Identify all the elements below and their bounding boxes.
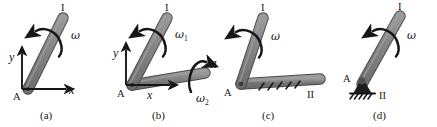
panel-b-omega1-symbol: ω [175,28,184,41]
panel-a-axis-y-label: y [9,51,14,63]
panel-d-joint-A-label: A [343,74,351,85]
panel-c-rod-II-label: II [307,90,314,101]
mechanism-figure [0,0,437,127]
panel-d-rod-I-label: I [398,2,402,13]
panel-d-omega-label: ω [407,30,416,41]
panel-b-omega2-subscript: 2 [205,98,209,107]
panel-b-omega2-label: ω2 [196,93,209,107]
panel-c-caption: (c) [262,110,274,121]
panel-b-caption: (b) [152,110,165,121]
panel-c-omega-label: ω [271,31,280,42]
panel-d-caption: (d) [373,110,386,121]
panel-b-omega2-symbol: ω [196,92,205,105]
panel-b-axis-x-label: x [147,89,152,101]
panel-a-caption: (a) [40,110,52,121]
panel-d-ground-II-label: II [379,91,386,102]
panel-a-joint-A-label: A [13,92,21,103]
panel-b-joint-A-label: A [117,89,125,100]
panel-a-rod-I-label: I [61,3,65,14]
panel-c-pivot-A [239,82,244,87]
panel-a-axis-x-label: x [69,84,74,96]
panel-c-rod-I-label: I [261,3,265,14]
panel-b-rod-I-label: I [165,3,169,14]
panel-b-axis-y-label: y [113,47,118,59]
panel-c-joint-A-label: A [224,88,232,99]
panel-b-omega1-label: ω1 [175,29,188,43]
panel-b-omega1-subscript: 1 [184,34,188,43]
panel-b-rod-II-label: II [210,60,217,71]
panel-a-omega-label: ω [71,30,80,41]
